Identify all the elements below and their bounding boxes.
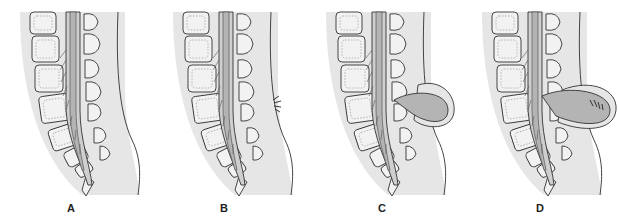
panel-label-b: B — [214, 202, 234, 214]
spine-illustration-sac-neural — [462, 0, 618, 200]
panel-a: A — [0, 0, 150, 223]
panel-c: C — [306, 0, 456, 223]
panel-d: D — [462, 0, 612, 223]
panel-label-c: C — [372, 202, 392, 214]
panel-label-d: D — [530, 202, 550, 214]
panel-label-a: A — [61, 202, 81, 214]
panel-b: B — [153, 0, 303, 223]
spine-illustration-normal — [0, 0, 150, 200]
spine-illustration-fluid-sac — [306, 0, 466, 200]
spine-illustration-hair-tuft — [153, 0, 303, 200]
